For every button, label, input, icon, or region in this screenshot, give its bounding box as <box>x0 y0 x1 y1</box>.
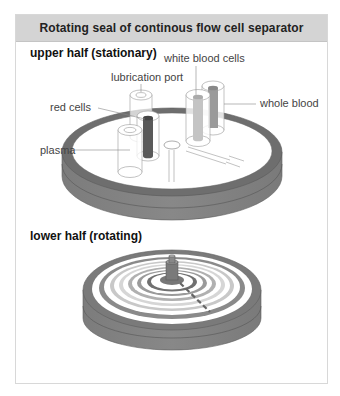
lubrication-port-label: lubrication port <box>111 71 183 83</box>
white-blood-cells-label: white blood cells <box>163 52 245 64</box>
lower-disc <box>83 250 261 350</box>
seal-diagram: lubrication port white blood cells red c… <box>0 0 340 396</box>
red-cells-label: red cells <box>50 101 91 113</box>
plasma-tube <box>118 125 142 178</box>
upper-disc <box>62 81 282 220</box>
white-blood-cells-tube <box>186 90 210 147</box>
whole-blood-label: whole blood <box>259 97 319 109</box>
plasma-label: plasma <box>40 144 76 156</box>
